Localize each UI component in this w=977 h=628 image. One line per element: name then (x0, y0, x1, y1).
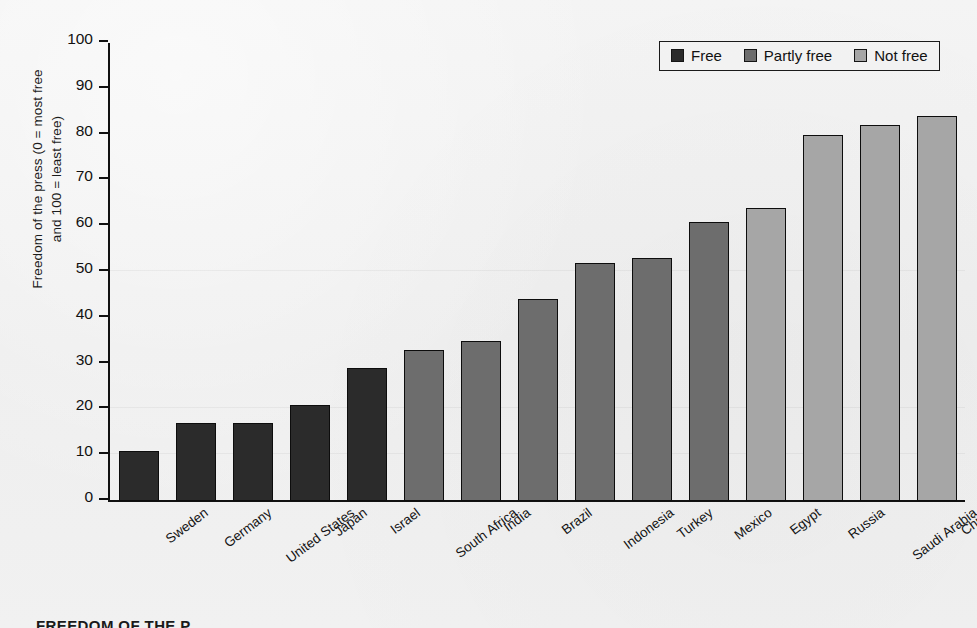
y-axis-tick-label: 100 (67, 29, 93, 49)
x-axis-category-label: Israel (387, 505, 423, 538)
x-axis-category-label: Turkey (674, 505, 716, 542)
y-axis-tick-label: 70 (76, 166, 93, 186)
bar-slot (233, 43, 273, 501)
y-axis-tick-label: 60 (76, 212, 93, 232)
bar[interactable] (746, 208, 786, 501)
bar-slot (575, 43, 615, 501)
y-axis-tick: 90 (99, 86, 108, 88)
bar-slot (632, 43, 672, 501)
bar-slot (404, 43, 444, 501)
legend-item-partly-free[interactable]: Partly free (744, 47, 832, 64)
bar-series-container (110, 43, 965, 501)
legend-label: Free (691, 47, 722, 64)
y-axis-tick: 40 (99, 315, 108, 317)
x-axis-category-label: Brazil (558, 505, 595, 538)
bar[interactable] (575, 263, 615, 501)
bar[interactable] (233, 423, 273, 501)
plot-area: 1009080706050403020100 (108, 43, 965, 501)
bar-slot (746, 43, 786, 501)
bar-slot (803, 43, 843, 501)
y-axis-tick-label: 30 (76, 350, 93, 370)
chart-legend: FreePartly freeNot free (659, 41, 940, 71)
bar[interactable] (404, 350, 444, 501)
y-axis-title: Freedom of the press (0 = most free and … (28, 14, 66, 344)
bar[interactable] (518, 299, 558, 501)
bar-slot (347, 43, 387, 501)
y-axis-tick: 20 (99, 406, 108, 408)
bar[interactable] (689, 222, 729, 501)
x-axis-category-labels: SwedenGermanyUnited StatesJapanIsraelSou… (110, 505, 970, 600)
x-axis-category-label: Russia (845, 505, 888, 543)
bar[interactable] (860, 125, 900, 501)
bar[interactable] (803, 135, 843, 501)
y-axis-tick-label: 10 (76, 441, 93, 461)
bar[interactable] (461, 341, 501, 501)
bar[interactable] (632, 258, 672, 501)
press-freedom-bar-chart-figure: Freedom of the press (0 = most free and … (0, 0, 977, 628)
legend-label: Partly free (764, 47, 832, 64)
bar-slot (689, 43, 729, 501)
y-axis-tick: 10 (99, 452, 108, 454)
y-axis-tick-label: 80 (76, 121, 93, 141)
x-axis-category-label: Egypt (786, 505, 823, 539)
y-axis-tick: 50 (99, 269, 108, 271)
y-axis-tick: 0 (99, 498, 108, 500)
legend-swatch-icon (854, 49, 867, 62)
y-axis-tick-label: 50 (76, 258, 93, 278)
bar-slot (518, 43, 558, 501)
y-axis-tick-label: 90 (76, 75, 93, 95)
bar[interactable] (290, 405, 330, 501)
legend-swatch-icon (671, 49, 684, 62)
x-axis-category-label: Indonesia (620, 505, 676, 553)
y-axis-tick-label: 20 (76, 395, 93, 415)
y-axis-tick: 100 (99, 40, 108, 42)
legend-swatch-icon (744, 49, 757, 62)
x-axis-category-label: Germany (221, 505, 275, 551)
legend-label: Not free (874, 47, 927, 64)
bar[interactable] (347, 368, 387, 501)
bar[interactable] (119, 451, 159, 501)
x-axis-category-label: Mexico (731, 505, 775, 544)
legend-item-not-free[interactable]: Not free (854, 47, 927, 64)
bar[interactable] (917, 116, 957, 501)
y-axis-tick-label: 40 (76, 304, 93, 324)
figure-caption: FREEDOM OF THE P (36, 617, 191, 628)
bar-slot (290, 43, 330, 501)
legend-item-free[interactable]: Free (671, 47, 722, 64)
bar[interactable] (176, 423, 216, 501)
y-axis-tick-label: 0 (84, 487, 93, 507)
y-axis-tick: 60 (99, 223, 108, 225)
bar-slot (119, 43, 159, 501)
y-axis-tick: 80 (99, 132, 108, 134)
y-axis-tick: 70 (99, 177, 108, 179)
bar-slot (176, 43, 216, 501)
bar-slot (917, 43, 957, 501)
bar-slot (860, 43, 900, 501)
x-axis-category-label: Sweden (162, 505, 211, 547)
bar-slot (461, 43, 501, 501)
y-axis-tick: 30 (99, 361, 108, 363)
